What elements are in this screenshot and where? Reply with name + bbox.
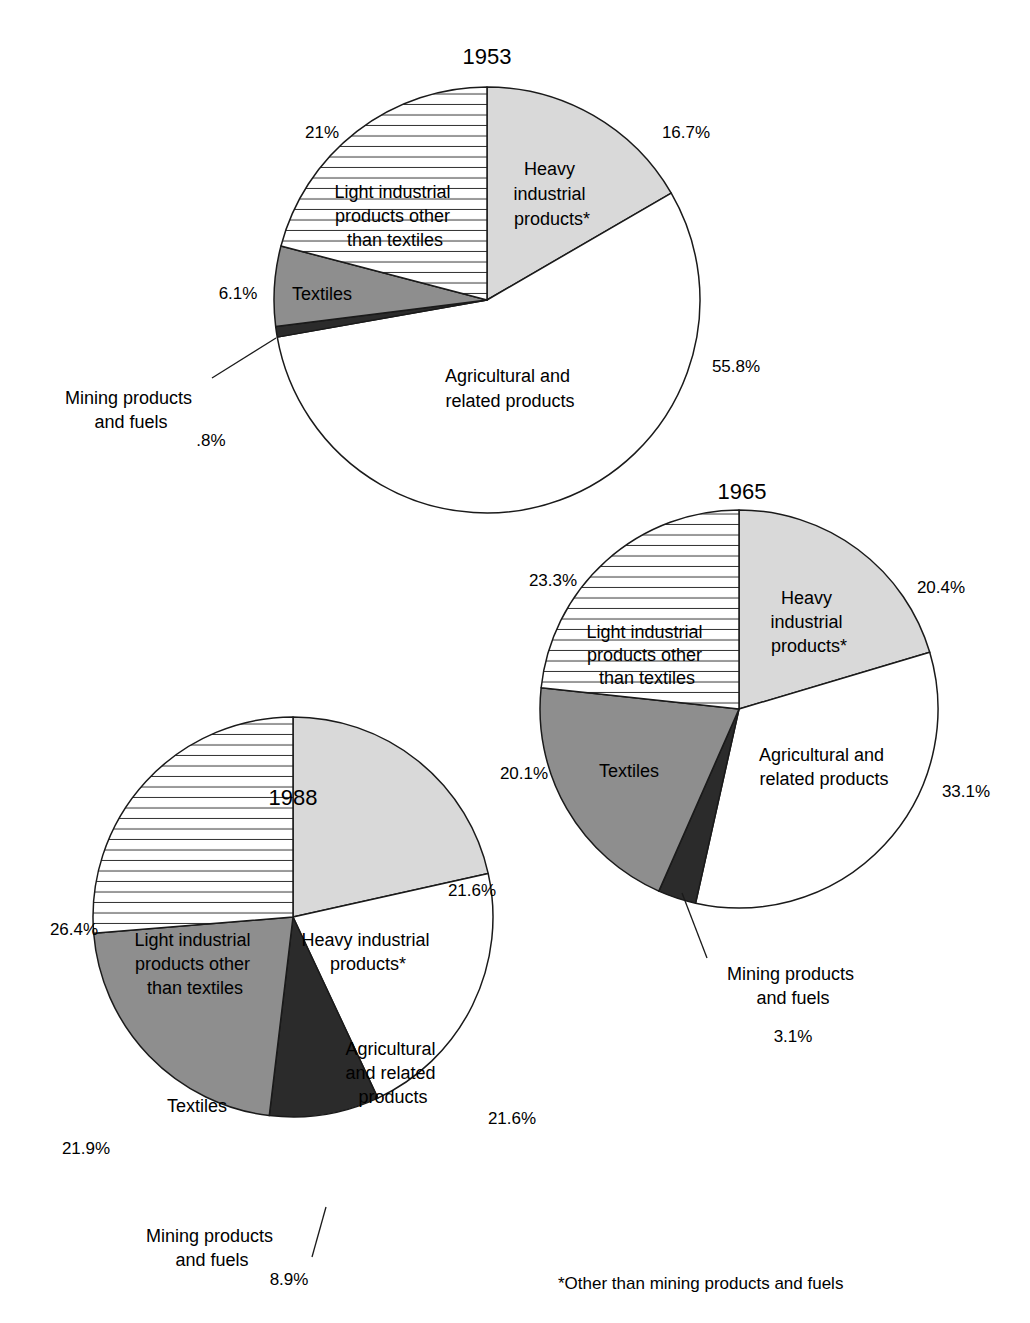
pct-textiles-1965: 20.1% (500, 764, 548, 783)
label-textiles-1953: Textiles (292, 284, 352, 304)
pct-light-1953: 21% (305, 123, 339, 142)
leader-mining-1988 (312, 1207, 326, 1257)
pct-mining-1953: .8% (196, 431, 225, 450)
pct-agri-1988: 21.6% (488, 1109, 536, 1128)
slice-light (93, 717, 293, 933)
pct-light-1965: 23.3% (529, 571, 577, 590)
label-light-1988: Light industrial products other than tex… (134, 930, 255, 998)
label-agri-1988: Agricultural and related products (345, 1039, 440, 1107)
pie-title-1953: 1953 (463, 44, 512, 69)
label-light-1965: Light industrial products other than tex… (586, 622, 707, 688)
label-textiles-1965: Textiles (599, 761, 659, 781)
label-mining-1965: Mining products and fuels (727, 964, 859, 1008)
pct-heavy-1965: 20.4% (917, 578, 965, 597)
pct-mining-1965: 3.1% (774, 1027, 813, 1046)
pct-heavy-1953: 16.7% (662, 123, 710, 142)
pct-textiles-1953: 6.1% (219, 284, 258, 303)
pct-light-1988: 26.4% (50, 920, 98, 939)
pct-textiles-1988: 21.9% (62, 1139, 110, 1158)
pct-agri-1965: 33.1% (942, 782, 990, 801)
label-textiles-1988: Textiles (167, 1096, 227, 1116)
pie-title-1988: 1988 (269, 785, 318, 810)
label-heavy-1965: Heavy industrial products* (770, 588, 847, 656)
pct-agri-1953: 55.8% (712, 357, 760, 376)
pct-heavy-1988: 21.6% (448, 881, 496, 900)
footnote: *Other than mining products and fuels (558, 1274, 843, 1293)
pie-1965 (540, 510, 938, 908)
pie-title-1965: 1965 (718, 479, 767, 504)
label-heavy-1953: Heavy industrial products* (513, 159, 590, 229)
chart-canvas: 1953 Heavy industrial products* 16.7% Li… (0, 0, 1030, 1323)
pct-mining-1988: 8.9% (270, 1270, 309, 1289)
label-mining-1953: Mining products and fuels (65, 388, 197, 432)
label-mining-1988: Mining products and fuels (146, 1226, 278, 1270)
leader-mining-1953 (212, 338, 276, 378)
label-light-1953: Light industrial products other than tex… (334, 182, 455, 250)
